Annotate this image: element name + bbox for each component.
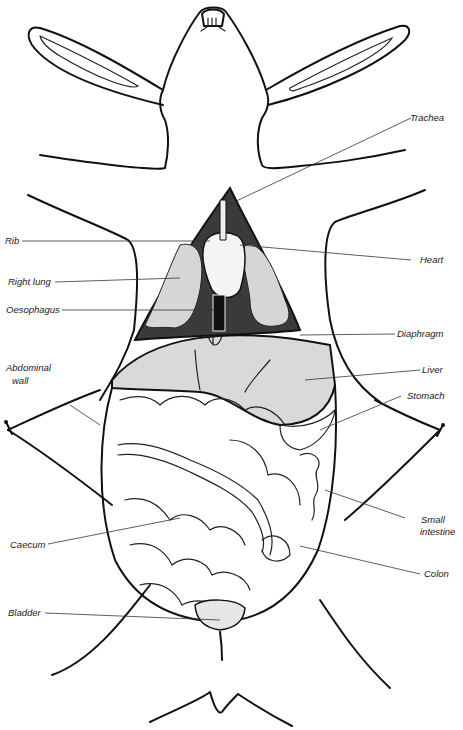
right-ear [266,26,409,105]
left-ear [29,27,163,105]
liver-region [112,335,335,425]
label-heart: Heart [420,254,443,265]
label-bladder: Bladder [8,607,41,618]
pins [4,420,445,436]
label-caecum: Caecum [10,539,45,550]
label-colon: Colon [424,568,449,579]
label-right-lung: Right lung [8,276,51,287]
small-intestine [300,453,319,520]
label-stomach: Stomach [407,390,445,401]
label-abdominal-wall-line2: wall [12,375,28,386]
head [40,8,405,169]
trachea [220,200,226,240]
label-trachea: Trachea [410,112,444,123]
bladder [195,600,245,630]
rabbit-dissection-diagram [0,0,463,730]
label-small-intestine-line1: Small [421,514,445,525]
label-diaphragm: Diaphragm [397,328,443,339]
thorax [135,188,300,340]
label-rib: Rib [5,235,19,246]
label-small-intestine-line2: intestine [420,526,455,537]
label-liver: Liver [422,364,443,375]
label-oesophagus: Oesophagus [6,304,60,315]
label-abdominal-wall-line1: Abdominal [6,362,51,373]
abdomen [101,385,336,660]
